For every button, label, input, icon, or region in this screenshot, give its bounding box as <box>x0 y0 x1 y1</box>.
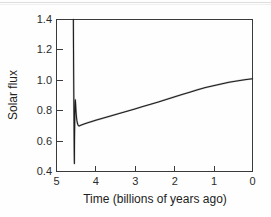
y-tick-label-0.6: 0.6 <box>37 135 52 147</box>
x-tick-label-4: 4 <box>93 175 99 187</box>
x-axis-ticks <box>57 166 253 172</box>
x-tick-label-2: 2 <box>172 175 178 187</box>
x-tick-label-0: 0 <box>249 175 255 187</box>
solar-flux-plot: 1.4 1.2 1.0 0.8 0.6 0.4 5 4 3 2 1 0 Time… <box>0 0 271 217</box>
y-tick-label-0.8: 0.8 <box>37 104 52 116</box>
y-tick-label-1.2: 1.2 <box>37 43 52 55</box>
x-axis-title: Time (billions of years ago) <box>83 192 227 206</box>
solar-flux-curve <box>73 20 252 164</box>
y-axis-title: Solar flux <box>6 70 20 120</box>
x-tick-label-5: 5 <box>53 175 59 187</box>
x-tick-label-1: 1 <box>211 175 217 187</box>
y-axis-ticks <box>57 20 63 172</box>
y-axis-tick-labels: 1.4 1.2 1.0 0.8 0.6 0.4 <box>37 13 52 177</box>
y-tick-label-1.0: 1.0 <box>37 74 52 86</box>
plot-frame <box>56 19 253 172</box>
x-axis-tick-labels: 5 4 3 2 1 0 <box>53 175 255 187</box>
y-tick-label-1.4: 1.4 <box>37 13 52 25</box>
chart-figure: 1.4 1.2 1.0 0.8 0.6 0.4 5 4 3 2 1 0 Time… <box>0 0 271 217</box>
y-tick-label-0.4: 0.4 <box>37 165 52 177</box>
solar-flux-curve-halo <box>73 20 252 164</box>
x-tick-label-3: 3 <box>132 175 138 187</box>
